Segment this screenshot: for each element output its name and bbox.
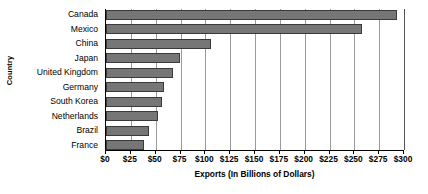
- x-tick-label: $275: [369, 154, 388, 165]
- category-label: Canada: [12, 9, 101, 19]
- category-label: Germany: [12, 82, 101, 92]
- bar-row: [106, 126, 404, 136]
- x-tick-label: $25: [123, 154, 137, 165]
- gridline: [404, 9, 405, 150]
- bar-row: [106, 39, 404, 49]
- category-label: Japan: [12, 53, 101, 63]
- x-tick-label: $0: [100, 154, 109, 165]
- x-axis-tick-labels: $0$25$50$75$100$125$150$175$200$225$250$…: [0, 154, 428, 166]
- x-tick-label: $300: [394, 154, 413, 165]
- category-label: Brazil: [12, 125, 101, 135]
- bar: [106, 126, 149, 136]
- bar: [106, 111, 158, 121]
- bar-series: [106, 9, 404, 150]
- bar: [106, 10, 397, 20]
- bar-row: [106, 140, 404, 150]
- bar-row: [106, 68, 404, 78]
- category-label: Mexico: [12, 24, 101, 34]
- bar: [106, 97, 162, 107]
- bar-chart: Country CanadaMexicoChinaJapanUnited Kin…: [0, 0, 428, 194]
- bar: [106, 53, 180, 63]
- x-tick-label: $150: [245, 154, 264, 165]
- bar: [106, 39, 211, 49]
- category-label: Netherlands: [12, 111, 101, 121]
- x-tick-label: $125: [220, 154, 239, 165]
- x-tick-label: $100: [195, 154, 214, 165]
- x-tick-label: $75: [173, 154, 187, 165]
- category-label: United Kingdom: [12, 67, 101, 77]
- category-label: South Korea: [12, 96, 101, 106]
- category-label: France: [12, 140, 101, 150]
- plot-area: [105, 9, 404, 151]
- x-tick-label: $225: [319, 154, 338, 165]
- bar-row: [106, 53, 404, 63]
- x-axis-title: Exports (In Billions of Dollars): [105, 169, 404, 179]
- bar: [106, 68, 173, 78]
- bar-row: [106, 82, 404, 92]
- bar-row: [106, 10, 404, 20]
- category-label: China: [12, 38, 101, 48]
- bar-row: [106, 111, 404, 121]
- x-tick-label: $200: [294, 154, 313, 165]
- bar: [106, 24, 362, 34]
- bar: [106, 140, 144, 150]
- x-tick-label: $175: [270, 154, 289, 165]
- bar-row: [106, 24, 404, 34]
- bar-row: [106, 97, 404, 107]
- x-tick-label: $250: [344, 154, 363, 165]
- bar: [106, 82, 164, 92]
- y-axis-category-labels: CanadaMexicoChinaJapanUnited KingdomGerm…: [12, 9, 101, 150]
- x-tick-label: $50: [148, 154, 162, 165]
